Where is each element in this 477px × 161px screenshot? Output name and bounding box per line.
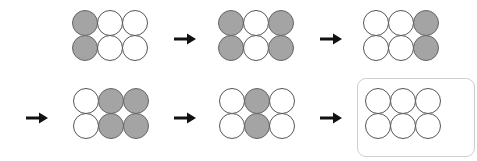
empty-circle-icon	[269, 88, 295, 114]
circle-grid-step-5	[219, 88, 297, 140]
filled-circle-icon	[98, 88, 124, 114]
filled-circle-icon	[72, 10, 98, 36]
empty-circle-icon	[122, 10, 148, 36]
empty-circle-icon	[73, 113, 99, 139]
empty-circle-icon	[269, 113, 295, 139]
empty-circle-icon	[219, 113, 245, 139]
circle-grid-step-3	[363, 10, 441, 62]
filled-circle-icon	[72, 35, 98, 61]
empty-circle-icon	[122, 35, 148, 61]
empty-circle-icon	[219, 88, 245, 114]
right-arrow-icon	[320, 33, 342, 45]
empty-circle-icon	[243, 35, 269, 61]
filled-circle-icon	[268, 10, 294, 36]
filled-circle-icon	[244, 113, 270, 139]
answer-highlight-box	[357, 78, 475, 157]
circle-grid-step-2	[218, 10, 296, 62]
right-arrow-icon	[174, 112, 196, 124]
empty-circle-icon	[363, 10, 389, 36]
empty-circle-icon	[97, 35, 123, 61]
right-arrow-icon	[174, 33, 196, 45]
empty-circle-icon	[243, 10, 269, 36]
circle-grid-step-1	[72, 10, 150, 62]
empty-circle-icon	[73, 88, 99, 114]
right-arrow-icon	[320, 112, 342, 124]
filled-circle-icon	[413, 35, 439, 61]
filled-circle-icon	[218, 10, 244, 36]
empty-circle-icon	[388, 10, 414, 36]
right-arrow-icon	[26, 112, 48, 124]
empty-circle-icon	[388, 35, 414, 61]
circle-grid-step-4	[73, 88, 151, 140]
filled-circle-icon	[268, 35, 294, 61]
filled-circle-icon	[98, 113, 124, 139]
filled-circle-icon	[244, 88, 270, 114]
empty-circle-icon	[363, 35, 389, 61]
empty-circle-icon	[97, 10, 123, 36]
filled-circle-icon	[413, 10, 439, 36]
filled-circle-icon	[123, 88, 149, 114]
filled-circle-icon	[123, 113, 149, 139]
filled-circle-icon	[218, 35, 244, 61]
